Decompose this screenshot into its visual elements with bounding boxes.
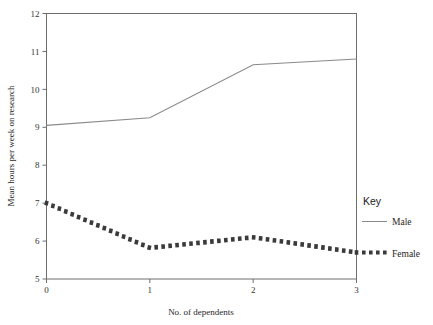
chart-background [0,0,433,325]
y-tick-label: 5 [35,274,40,284]
x-tick-label: 2 [251,285,256,295]
line-chart: 56789101112 0123 No. of dependents Mean … [0,0,433,325]
x-tick-label: 0 [44,285,49,295]
y-tick-label: 11 [31,47,40,57]
x-axis-title: No. of dependents [168,307,234,317]
y-tick-label: 7 [35,198,40,208]
y-tick-label: 9 [35,122,40,132]
legend-item-male: Male [392,217,412,227]
legend-title: Key [363,195,382,207]
y-tick-label: 6 [35,236,40,246]
y-axis-title: Mean hours per week on research [6,85,16,207]
chart-figure: 56789101112 0123 No. of dependents Mean … [0,0,433,325]
x-tick-label: 1 [148,285,153,295]
y-tick-label: 8 [35,160,40,170]
legend-item-female: Female [392,249,420,259]
x-tick-label: 3 [354,285,359,295]
y-tick-label: 12 [31,9,40,19]
y-tick-label: 10 [31,85,41,95]
